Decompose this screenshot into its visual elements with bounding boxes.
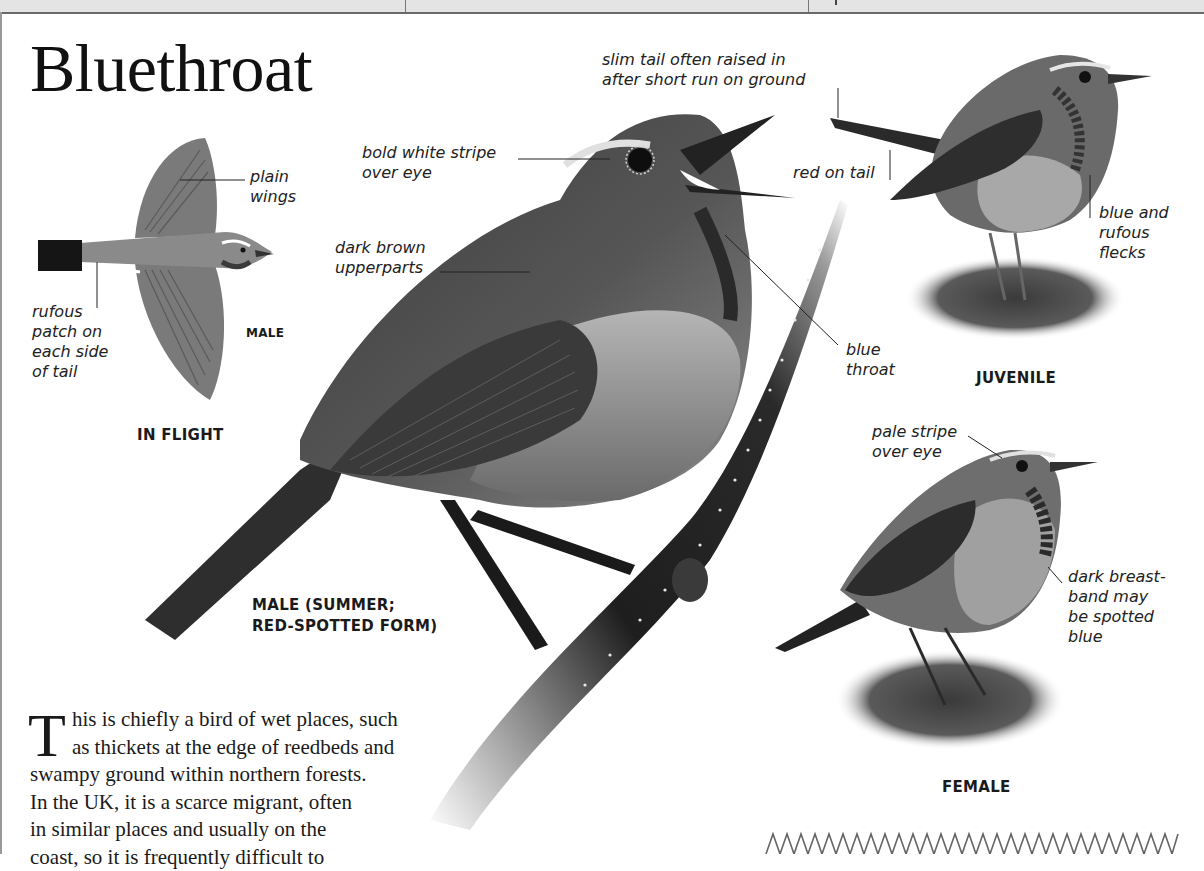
annotation-pale-stripe: pale stripe over eye xyxy=(872,422,957,462)
juvenile-bird-icon xyxy=(830,55,1152,340)
caption-in-flight-male: MALE xyxy=(246,323,284,344)
annotation-red-on-tail: red on tail xyxy=(793,163,875,183)
caption-in-flight: IN FLIGHT xyxy=(137,425,224,446)
annotation-slim-tail: slim tail often raised in after short ru… xyxy=(602,50,805,90)
intro-paragraph: T his is chiefly a bird of wet places, s… xyxy=(30,706,500,871)
zigzag-divider xyxy=(766,834,1178,854)
annotation-dark-brown-upperparts: dark brown upperparts xyxy=(335,238,426,278)
annotation-plain-wings: plain wings xyxy=(250,167,296,207)
annotation-rufous-patch: rufous patch on each side of tail xyxy=(32,302,108,382)
drop-cap: T xyxy=(28,710,66,760)
female-bird-icon xyxy=(775,450,1098,750)
annotation-dark-breast-band: dark breast- band may be spotted blue xyxy=(1068,567,1166,647)
annotation-bold-white-stripe: bold white stripe over eye xyxy=(362,143,496,183)
caption-female: FEMALE xyxy=(942,777,1011,798)
annotation-blue-throat: blue throat xyxy=(846,340,895,380)
page-title: Bluethroat xyxy=(30,28,312,108)
annotation-blue-rufous-flecks: blue and rufous flecks xyxy=(1099,203,1169,263)
caption-juvenile: JUVENILE xyxy=(976,368,1056,389)
caption-male-summer: MALE (SUMMER; RED-SPOTTED FORM) xyxy=(252,595,437,637)
